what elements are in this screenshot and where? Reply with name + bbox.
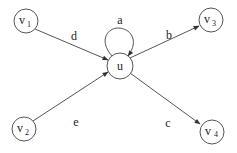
svg-text:u: u (117, 59, 123, 73)
svg-text:4: 4 (214, 130, 218, 139)
node-v1: v 1 (14, 9, 38, 33)
node-v4: v 4 (200, 120, 224, 144)
svg-text:v: v (17, 121, 23, 135)
svg-text:v: v (205, 124, 211, 138)
svg-text:3: 3 (212, 19, 216, 28)
edge-label-d: d (71, 29, 77, 43)
edge-label-e: e (73, 115, 78, 129)
graph-diagram: d e a b c v 1 v 2 u v 3 v 4 (0, 0, 237, 153)
edge-b (130, 26, 199, 58)
node-v3: v 3 (199, 8, 223, 32)
node-v2: v 2 (12, 117, 36, 141)
svg-text:v: v (204, 12, 210, 26)
node-u: u (107, 53, 133, 79)
edge-label-c: c (165, 116, 170, 130)
edge-e (33, 72, 108, 121)
edge-label-b: b (166, 28, 172, 42)
edge-a-selfloop (105, 28, 133, 56)
edge-label-a: a (117, 13, 123, 27)
svg-text:2: 2 (25, 128, 29, 137)
svg-text:v: v (19, 13, 25, 27)
svg-text:1: 1 (27, 20, 31, 29)
